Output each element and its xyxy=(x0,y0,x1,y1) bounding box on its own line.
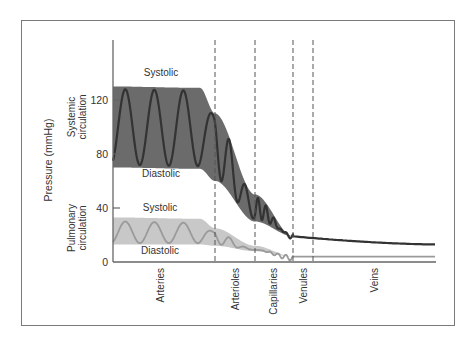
systemic-group-label-line2: circulation xyxy=(77,94,88,139)
y-axis-title: Pressure (mmHg) xyxy=(42,119,54,202)
systemic-diastolic-label: Diastolic xyxy=(142,168,180,179)
systemic-systolic-label: Systolic xyxy=(144,67,178,78)
systemic-band xyxy=(113,87,293,237)
systemic-group-label-line1: Systemic xyxy=(66,97,77,138)
region-label-venules: Venules xyxy=(298,268,309,304)
pressure-chart: 04080120 Pressure (mmHg) Systemic circul… xyxy=(0,0,473,346)
pulmonary-group-label-line2: circulation xyxy=(77,205,88,250)
pulmonary-group-label-line1: Pulmonary xyxy=(66,204,77,252)
y-tick-label: 120 xyxy=(90,94,108,106)
pulmonary-systolic-label: Systolic xyxy=(143,202,177,213)
region-label-arteries: Arteries xyxy=(155,268,166,302)
region-label-veins: Veins xyxy=(369,268,380,292)
y-tick-label: 0 xyxy=(102,256,108,268)
region-label-arterioles: Arterioles xyxy=(230,268,241,310)
y-tick-label: 80 xyxy=(96,148,108,160)
pulmonary-diastolic-label: Diastolic xyxy=(141,245,179,256)
pressure-bands xyxy=(113,87,293,257)
y-tick-label: 40 xyxy=(96,202,108,214)
region-label-capillaries: Capillaries xyxy=(268,268,279,315)
